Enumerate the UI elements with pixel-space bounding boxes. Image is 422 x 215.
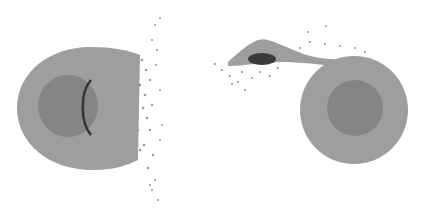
right-body-core	[327, 80, 383, 136]
simulation-figure	[0, 0, 422, 215]
right-fragment	[248, 53, 276, 65]
right-panel	[214, 25, 408, 164]
right-debris-tail	[228, 39, 372, 68]
left-panel	[17, 17, 163, 201]
